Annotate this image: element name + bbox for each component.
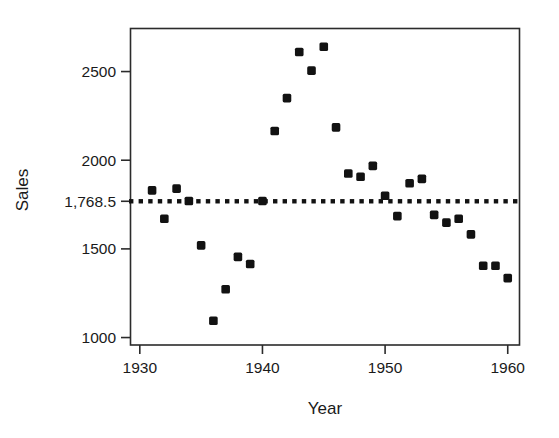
reference-line-dot [350, 199, 354, 203]
data-point [172, 184, 181, 193]
data-point [442, 218, 451, 227]
data-point [246, 260, 255, 269]
reference-line-dot [359, 199, 363, 203]
reference-line-dot [427, 199, 431, 203]
data-point [148, 186, 157, 195]
reference-line-dot [235, 199, 239, 203]
data-point [197, 241, 206, 250]
data-point [185, 197, 194, 206]
y-tick-label: 1500 [82, 240, 117, 257]
reference-line-dot [503, 199, 507, 203]
reference-line-dot [513, 199, 517, 203]
reference-line-dot [244, 199, 248, 203]
data-point [344, 169, 353, 178]
x-tick-label: 1960 [490, 359, 525, 376]
chart-figure: 100015001,768.520002500 1930194019501960… [0, 0, 559, 438]
data-point [221, 285, 230, 294]
data-point [418, 175, 427, 184]
reference-line-dot [311, 199, 315, 203]
data-point [332, 123, 341, 132]
data-point [454, 214, 463, 223]
data-point [258, 197, 267, 206]
reference-line-dot [148, 199, 152, 203]
data-point [209, 316, 218, 325]
reference-line-dot [465, 199, 469, 203]
data-point [467, 230, 476, 239]
x-axis-title: Year [308, 399, 343, 418]
reference-line-dot [225, 199, 229, 203]
data-point [430, 211, 439, 220]
x-tick-label: 1950 [368, 359, 403, 376]
data-point [319, 42, 328, 51]
reference-line-dot [388, 199, 392, 203]
data-point [491, 261, 500, 270]
reference-line-dot [215, 199, 219, 203]
data-point [295, 48, 304, 57]
data-point [393, 212, 402, 221]
reference-line-dot [254, 199, 258, 203]
y-axis-title: Sales [13, 169, 32, 212]
reference-line-dot [273, 199, 277, 203]
reference-line-dot [302, 199, 306, 203]
reference-line-dot [177, 199, 181, 203]
reference-line-dot [340, 199, 344, 203]
reference-line-dot [206, 199, 210, 203]
data-point [283, 94, 292, 103]
reference-line-dot [369, 199, 373, 203]
reference-line-dot [167, 199, 171, 203]
data-point [405, 179, 414, 188]
reference-line-dot [446, 199, 450, 203]
data-point [479, 261, 488, 270]
reference-line-dot [196, 199, 200, 203]
reference-line-dot [321, 199, 325, 203]
reference-line-dot [455, 199, 459, 203]
reference-line-dot [331, 199, 335, 203]
data-point [381, 191, 390, 200]
data-point [503, 274, 512, 283]
reference-line-dot [158, 199, 162, 203]
reference-line-dot [475, 199, 479, 203]
y-tick-label: 2500 [82, 63, 117, 80]
reference-line-dot [407, 199, 411, 203]
data-point [270, 127, 279, 136]
reference-line-dot [494, 199, 498, 203]
reference-line-dot [436, 199, 440, 203]
data-point [369, 162, 378, 171]
x-tick-label: 1930 [123, 359, 158, 376]
scatter-plot: 100015001,768.520002500 1930194019501960… [0, 0, 559, 438]
reference-line-dot [484, 199, 488, 203]
reference-line-dot [139, 199, 143, 203]
data-point [356, 172, 365, 181]
reference-line-dot [417, 199, 421, 203]
reference-line-dot [398, 199, 402, 203]
reference-line-dot [129, 199, 133, 203]
data-point [160, 214, 169, 223]
x-tick-label: 1940 [245, 359, 280, 376]
y-tick-label: 1,768.5 [64, 193, 116, 210]
reference-line-dot [292, 199, 296, 203]
data-point [234, 253, 243, 262]
reference-line-dot [283, 199, 287, 203]
y-tick-label: 2000 [82, 152, 117, 169]
data-point [307, 66, 316, 75]
y-tick-label: 1000 [82, 329, 117, 346]
